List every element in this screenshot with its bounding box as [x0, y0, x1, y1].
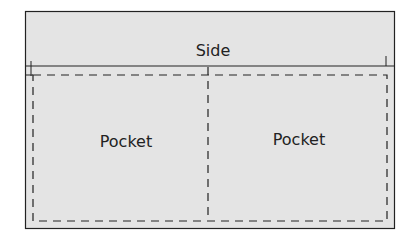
pocket-left-label: Pocket: [100, 132, 152, 151]
side-label: Side: [196, 41, 231, 60]
pattern-diagram: Side Pocket Pocket: [0, 0, 413, 243]
pocket-right-label: Pocket: [273, 130, 325, 149]
